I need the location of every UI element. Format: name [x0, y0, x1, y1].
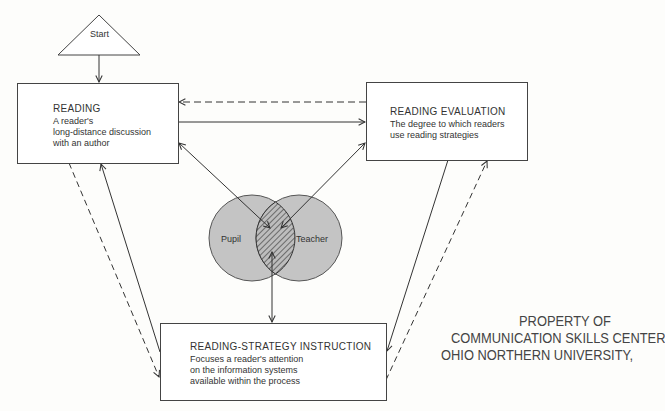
venn-label-pupil: Pupil: [221, 234, 241, 244]
node-reading-description: A reader's long-distance discussion with…: [53, 116, 178, 149]
stamp-line-2: COMMUNICATION SKILLS CENTER: [451, 330, 665, 347]
arrow-instruction-to-reading: [101, 164, 160, 352]
stamp-line-1: PROPERTY OF: [519, 313, 611, 330]
node-evaluation-description: The degree to which readers use reading …: [390, 119, 527, 141]
node-instruction-title: READING-STRATEGY INSTRUCTION: [190, 341, 386, 352]
node-reading-title: READING: [53, 103, 178, 114]
node-instruction: READING-STRATEGY INSTRUCTION Focuses a r…: [160, 323, 387, 401]
diagram-canvas: Start READING A reader's long-distance d…: [0, 0, 665, 411]
node-reading: READING A reader's long-distance discuss…: [17, 83, 179, 164]
venn-label-teacher: Teacher: [296, 234, 328, 244]
node-evaluation-title: READING EVALUATION: [390, 106, 527, 117]
node-instruction-description: Focuses a reader's attention on the info…: [190, 354, 386, 387]
node-evaluation: READING EVALUATION The degree to which r…: [366, 82, 528, 161]
start-label: Start: [90, 29, 109, 39]
arrow-evaluation-to-instruction: [387, 160, 448, 351]
arrow-reading-to-instruction-dashed: [69, 163, 159, 377]
stamp-line-3: OHIO NORTHERN UNIVERSITY,: [441, 347, 633, 364]
